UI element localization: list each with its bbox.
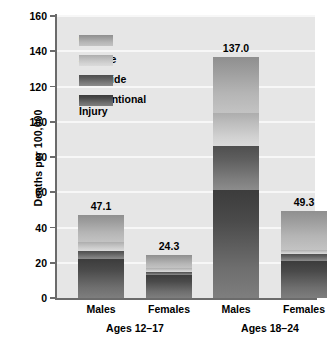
gridline-80 bbox=[57, 156, 315, 158]
y-tick-80 bbox=[50, 156, 57, 158]
legend-item-other: Other bbox=[79, 34, 229, 51]
y-tick-100 bbox=[50, 121, 57, 123]
bar-3-segment-other bbox=[281, 211, 327, 249]
bar-0-segment-homicide bbox=[78, 251, 124, 259]
legend-item-suicide: Suicide bbox=[79, 54, 229, 71]
bar-0-segment-other bbox=[78, 215, 124, 242]
bar-1-segment-suicide bbox=[146, 268, 192, 272]
x-label-bar-2: Males bbox=[221, 303, 250, 315]
bar-1-segment-unintentional bbox=[146, 275, 192, 298]
y-tick-120 bbox=[50, 86, 57, 88]
chart-legend: Other Suicide Homicide Unintentional Inj… bbox=[79, 34, 229, 124]
group-label-ages-18-24: Ages 18–24 bbox=[241, 322, 299, 334]
x-axis-line bbox=[55, 298, 317, 300]
stacked-bar-chart: Deaths per 100,000 020406080100120140160… bbox=[0, 0, 332, 341]
bar-1: 24.3 bbox=[146, 255, 192, 298]
bar-2: 137.0 bbox=[213, 57, 259, 298]
plot-area: 020406080100120140160 Other Suicide Homi… bbox=[57, 16, 315, 298]
bar-1-segment-homicide bbox=[146, 272, 192, 276]
legend-swatch-suicide-icon bbox=[79, 55, 113, 66]
y-tick-140 bbox=[50, 50, 57, 52]
bar-2-segment-unintentional bbox=[213, 190, 259, 298]
legend-item-unintentional-injury: Unintentional Injury bbox=[79, 94, 229, 121]
legend-swatch-other-icon bbox=[79, 35, 113, 46]
bar-0-segment-suicide bbox=[78, 242, 124, 252]
bar-value-label-0: 47.1 bbox=[91, 200, 111, 212]
bar-3-segment-suicide bbox=[281, 250, 327, 254]
x-label-bar-1: Females bbox=[148, 303, 190, 315]
y-tick-label-80: 80 bbox=[35, 151, 47, 163]
bar-0: 47.1 bbox=[78, 215, 124, 298]
bar-1-segment-other bbox=[146, 255, 192, 268]
y-tick-label-40: 40 bbox=[35, 222, 47, 234]
bar-3-segment-homicide bbox=[281, 254, 327, 261]
legend-item-homicide: Homicide bbox=[79, 74, 229, 91]
x-label-bar-0: Males bbox=[86, 303, 115, 315]
y-tick-label-120: 120 bbox=[29, 81, 47, 93]
y-tick-label-60: 60 bbox=[35, 186, 47, 198]
bar-value-label-1: 24.3 bbox=[159, 240, 179, 252]
y-tick-160 bbox=[50, 15, 57, 17]
y-tick-label-100: 100 bbox=[29, 116, 47, 128]
bar-3-segment-unintentional bbox=[281, 261, 327, 298]
y-tick-60 bbox=[50, 191, 57, 193]
gridline-160 bbox=[57, 15, 315, 17]
x-label-bar-3: Females bbox=[283, 303, 325, 315]
y-tick-label-140: 140 bbox=[29, 45, 47, 57]
legend-swatch-homicide-icon bbox=[79, 75, 113, 86]
bar-2-segment-other bbox=[213, 57, 259, 113]
y-tick-label-0: 0 bbox=[41, 292, 47, 304]
gridline-60 bbox=[57, 191, 315, 193]
y-tick-20 bbox=[50, 262, 57, 264]
bar-2-segment-homicide bbox=[213, 146, 259, 189]
bar-0-segment-unintentional bbox=[78, 259, 124, 298]
group-label-ages-12-17: Ages 12–17 bbox=[106, 322, 164, 334]
bar-value-label-2: 137.0 bbox=[223, 42, 249, 54]
y-tick-label-20: 20 bbox=[35, 257, 47, 269]
bar-value-label-3: 49.3 bbox=[294, 196, 314, 208]
y-tick-0 bbox=[50, 297, 57, 299]
y-tick-label-160: 160 bbox=[29, 10, 47, 22]
y-tick-40 bbox=[50, 227, 57, 229]
bar-2-segment-suicide bbox=[213, 113, 259, 146]
bar-3: 49.3 bbox=[281, 211, 327, 298]
legend-swatch-unintentional-injury-icon bbox=[79, 95, 113, 106]
